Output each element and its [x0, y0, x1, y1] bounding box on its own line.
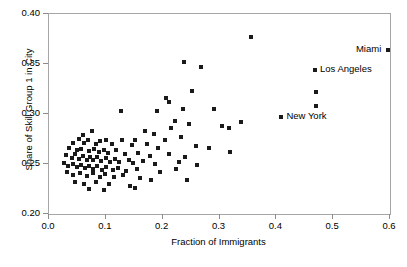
x-axis-tick-label: 0.4	[255, 221, 295, 231]
y-axis-tick-mark	[43, 63, 48, 64]
x-axis-ticks: 0.00.10.20.30.40.50.6	[0, 214, 407, 236]
point-annotation: Miami	[0, 44, 381, 54]
y-axis-tick-label: 0.25	[0, 158, 40, 168]
x-axis-tick-label: 0.2	[142, 221, 182, 231]
point-annotation: New York	[286, 111, 326, 121]
x-axis-tick-label: 0.0	[28, 221, 68, 231]
x-axis-tick-label: 0.6	[369, 221, 407, 231]
y-axis-tick-label: 0.40	[0, 8, 40, 18]
x-axis-tick-mark	[48, 214, 49, 219]
y-axis-tick-mark	[43, 113, 48, 114]
point-annotation: Los Angeles	[320, 64, 372, 74]
y-axis-tick-label: 0.30	[0, 108, 40, 118]
x-axis-tick-label: 0.1	[85, 221, 125, 231]
x-axis-tick-mark	[389, 214, 390, 219]
x-axis-tick-label: 0.5	[312, 221, 352, 231]
x-axis-tick-mark	[162, 214, 163, 219]
x-axis-tick-mark	[332, 214, 333, 219]
x-axis-tick-mark	[105, 214, 106, 219]
x-axis-tick-mark	[275, 214, 276, 219]
x-axis-tick-mark	[219, 214, 220, 219]
scatter-chart-figure: 0.200.250.300.350.40 0.00.10.20.30.40.50…	[0, 0, 407, 267]
x-axis-tick-label: 0.3	[199, 221, 239, 231]
y-axis-tick-label: 0.35	[0, 58, 40, 68]
y-axis-tick-mark	[43, 163, 48, 164]
y-axis-tick-mark	[43, 13, 48, 14]
x-axis-title: Fraction of Immigrants	[48, 236, 389, 247]
